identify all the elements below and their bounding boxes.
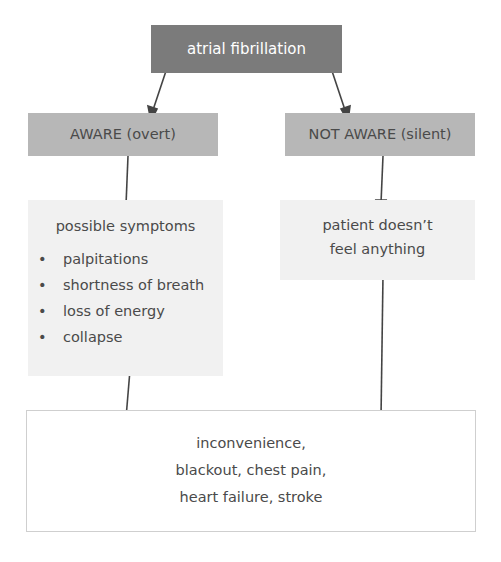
node-atrial-fibrillation: atrial fibrillation (151, 25, 342, 73)
arrow-patient-to-outcome (381, 275, 383, 418)
bullet-icon: • (38, 272, 47, 298)
symptoms-title: possible symptoms (28, 218, 223, 234)
list-item: •shortness of breath (28, 272, 223, 298)
list-item: •palpitations (28, 246, 223, 272)
bullet-icon: • (38, 298, 47, 324)
arrow-aware-to-symptoms (126, 156, 128, 205)
node-label: atrial fibrillation (187, 40, 306, 58)
node-label: AWARE (overt) (70, 126, 176, 142)
node-line: inconvenience, (27, 430, 475, 457)
node-patient-feels-nothing: patient doesn’t feel anything (280, 200, 475, 280)
symptom-text: loss of energy (63, 303, 165, 319)
symptoms-list: •palpitations •shortness of breath •loss… (28, 246, 223, 350)
node-label: NOT AWARE (silent) (309, 126, 452, 142)
node-aware: AWARE (overt) (28, 113, 218, 156)
node-line: blackout, chest pain, (27, 457, 475, 484)
symptom-text: palpitations (63, 251, 148, 267)
symptom-text: collapse (63, 329, 122, 345)
node-outcomes: inconvenience, blackout, chest pain, hea… (26, 410, 476, 532)
symptom-text: shortness of breath (63, 277, 204, 293)
node-line: heart failure, stroke (27, 484, 475, 511)
list-item: •collapse (28, 324, 223, 350)
node-not-aware: NOT AWARE (silent) (285, 113, 475, 156)
arrow-notaware-to-patient (381, 156, 383, 203)
bullet-icon: • (38, 324, 47, 350)
node-line: feel anything (280, 237, 475, 261)
node-line: patient doesn’t (280, 213, 475, 237)
node-possible-symptoms: possible symptoms •palpitations •shortne… (28, 200, 223, 376)
list-item: •loss of energy (28, 298, 223, 324)
bullet-icon: • (38, 246, 47, 272)
